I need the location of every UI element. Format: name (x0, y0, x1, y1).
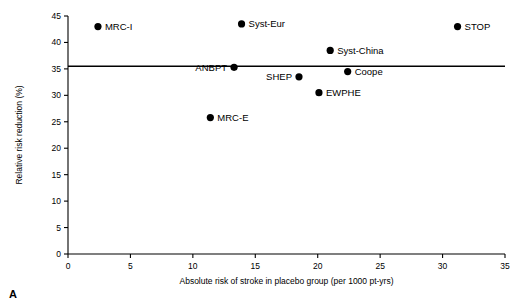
y-tick-label: 40 (52, 37, 62, 47)
data-point (295, 73, 302, 80)
x-tick-label: 20 (313, 261, 323, 271)
y-axis-title: Relative risk reduction (%) (14, 85, 24, 184)
data-point-label: MRC-E (217, 112, 248, 123)
x-tick-label: 10 (188, 261, 198, 271)
chart-plot-area: 05101520253035051015202530354045Absolute… (0, 0, 523, 308)
x-tick-label: 5 (128, 261, 133, 271)
y-tick-label: 0 (56, 249, 61, 259)
y-tick-label: 35 (52, 64, 62, 74)
data-point (207, 114, 214, 121)
data-point (327, 47, 334, 54)
panel-letter: A (9, 288, 17, 300)
x-axis-title: Absolute risk of stroke in placebo group… (179, 276, 393, 286)
x-tick-label: 15 (251, 261, 261, 271)
scatter-chart: 05101520253035051015202530354045Absolute… (0, 0, 523, 308)
y-tick-label: 45 (52, 11, 62, 21)
data-point-label: STOP (465, 21, 491, 32)
y-tick-label: 5 (56, 223, 61, 233)
data-point (238, 20, 245, 27)
data-point-label: Syst-China (337, 45, 384, 56)
y-tick-label: 15 (52, 170, 62, 180)
y-tick-label: 30 (52, 90, 62, 100)
data-point (344, 68, 351, 75)
data-point-label: MRC-I (105, 21, 132, 32)
data-point-label: Coope (355, 66, 383, 77)
x-tick-label: 30 (438, 261, 448, 271)
data-point (94, 23, 101, 30)
y-tick-label: 20 (52, 143, 62, 153)
data-point (454, 23, 461, 30)
x-tick-label: 35 (500, 261, 510, 271)
data-point-label: Syst-Eur (249, 18, 285, 29)
data-point-label: SHEP (266, 71, 292, 82)
y-tick-label: 25 (52, 117, 62, 127)
data-point (230, 64, 237, 71)
data-point-label: EWPHE (326, 87, 361, 98)
x-tick-label: 0 (66, 261, 71, 271)
x-tick-label: 25 (375, 261, 385, 271)
data-point-label: ANBPT (195, 62, 227, 73)
y-tick-label: 10 (52, 196, 62, 206)
data-point (315, 89, 322, 96)
